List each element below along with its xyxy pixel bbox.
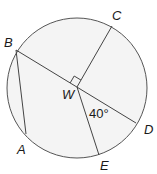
label-c: C (112, 8, 122, 23)
label-a: A (16, 142, 26, 157)
label-e: E (100, 158, 109, 173)
label-w: W (62, 87, 76, 102)
circle-diagram: B A C D E W 40° (0, 0, 157, 174)
angle-label: 40° (89, 106, 109, 121)
label-d: D (144, 122, 153, 137)
label-b: B (4, 35, 13, 50)
